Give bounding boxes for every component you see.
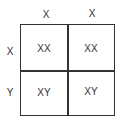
grid-divider-horizontal — [21, 70, 114, 72]
column-header-2: X — [82, 8, 102, 20]
row-header-2: Y — [0, 87, 20, 99]
cell-2-2: XY — [68, 86, 114, 98]
cell-2-1: XY — [21, 87, 67, 99]
row-header-1: X — [0, 46, 20, 58]
cell-1-2: XX — [68, 43, 114, 55]
column-header-1: X — [36, 9, 56, 21]
punnett-square: XX XX XY XY — [20, 24, 115, 116]
cell-1-1: XX — [21, 43, 67, 55]
